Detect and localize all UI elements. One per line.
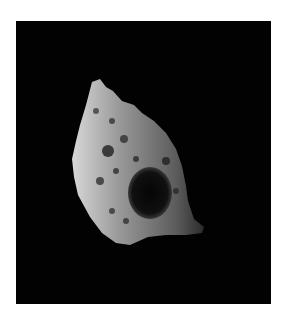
large-crater <box>128 167 172 219</box>
moon-body <box>72 79 204 245</box>
space-photo <box>16 21 271 304</box>
moon-illustration <box>16 21 271 304</box>
